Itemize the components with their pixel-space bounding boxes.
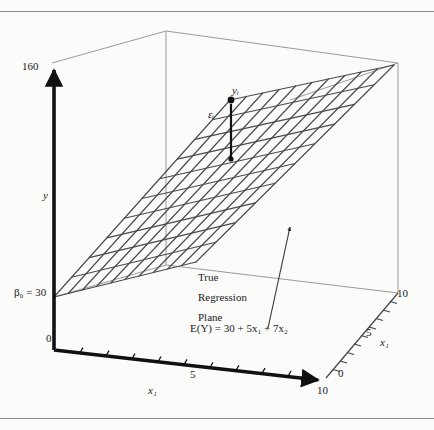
x2-axis-tick-10-label: 10 bbox=[397, 288, 408, 299]
x1-axis-tick-5-label: 5 bbox=[190, 369, 196, 380]
observed-value-label: yᵢ bbox=[232, 85, 239, 96]
y-intercept-label: β₀ = 30 bbox=[14, 287, 46, 298]
x1-axis-name-label: x₁ bbox=[148, 385, 157, 396]
plane-equation-label: E(Y) = 30 + 5x₁ + 7x₂ bbox=[190, 323, 288, 334]
callout-line-true: True bbox=[198, 272, 218, 283]
figure-container: 160 β₀ = 30 y 0 5 x₁ 10 0 5 x₁ 10 yᵢ εᵢ … bbox=[0, 0, 434, 430]
x2-axis-tick-0-label: 0 bbox=[338, 368, 344, 379]
x1-axis-line bbox=[54, 350, 318, 380]
box-floor-left-edge bbox=[54, 265, 166, 297]
box-top-face bbox=[52, 31, 398, 100]
x1-axis-tick-10-label: 10 bbox=[317, 385, 328, 396]
origin-label: 0 bbox=[46, 333, 52, 344]
regression-plane-plot bbox=[0, 0, 434, 430]
y-axis-max-tick-label: 160 bbox=[22, 61, 39, 72]
y-axis-name-label: y bbox=[43, 190, 48, 201]
residual-label: εᵢ bbox=[208, 109, 214, 120]
callout-line-regression: Regression bbox=[198, 292, 247, 303]
regression-plane-mesh bbox=[54, 65, 394, 297]
fitted-value-point bbox=[228, 156, 233, 161]
x2-axis-name-label: x₁ bbox=[380, 337, 389, 348]
x2-axis-tick-5-label: 5 bbox=[366, 327, 372, 338]
observed-value-point bbox=[228, 97, 235, 104]
